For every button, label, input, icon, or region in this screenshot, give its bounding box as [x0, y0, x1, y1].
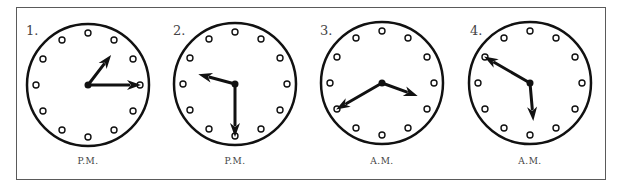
hour-marker-icon [424, 54, 430, 60]
clock-1-number: 1. [26, 23, 38, 38]
minute-hand-icon [484, 57, 530, 84]
hour-marker-icon [353, 35, 359, 41]
hour-marker-icon [405, 125, 411, 131]
hour-marker-icon [327, 80, 333, 86]
center-pin-icon [527, 80, 534, 87]
minute-hand-icon [230, 84, 240, 137]
clock-2-period-label: P.M. [160, 156, 310, 166]
hour-hand-icon [198, 73, 235, 84]
hour-marker-icon [527, 28, 533, 34]
center-pin-icon [379, 80, 386, 87]
hour-marker-icon [59, 37, 65, 43]
hour-marker-icon [130, 56, 136, 62]
hour-marker-icon [527, 132, 533, 138]
minute-hand-icon [88, 80, 141, 90]
hour-marker-icon [59, 127, 65, 133]
clock-3-period-label: A.M. [307, 156, 457, 166]
hour-marker-icon [111, 127, 117, 133]
hour-marker-icon [405, 35, 411, 41]
hour-marker-icon [206, 126, 212, 132]
hour-marker-icon [501, 35, 507, 41]
clock-4 [469, 22, 591, 144]
center-pin-icon [85, 82, 92, 89]
hour-hand-icon [382, 83, 418, 96]
hour-marker-icon [553, 35, 559, 41]
hour-marker-icon [284, 81, 290, 87]
hour-marker-icon [187, 55, 193, 61]
hour-marker-icon [572, 54, 578, 60]
clock-1 [27, 24, 149, 146]
hour-marker-icon [501, 125, 507, 131]
hour-marker-icon [424, 106, 430, 112]
hour-marker-icon [553, 125, 559, 131]
hour-marker-icon [572, 106, 578, 112]
clock-4-period-label: A.M. [455, 156, 605, 166]
hour-marker-icon [475, 80, 481, 86]
hour-marker-icon [579, 80, 585, 86]
hour-marker-icon [187, 107, 193, 113]
hour-marker-icon [431, 80, 437, 86]
hour-marker-icon [277, 55, 283, 61]
hour-marker-icon [206, 36, 212, 42]
hour-marker-icon [130, 108, 136, 114]
clock-2 [174, 23, 296, 145]
hour-marker-icon [277, 107, 283, 113]
hour-marker-icon [353, 125, 359, 131]
clock-3-number: 3. [320, 23, 332, 38]
hour-marker-icon [33, 82, 39, 88]
hour-marker-icon [258, 126, 264, 132]
hour-marker-icon [334, 54, 340, 60]
hour-marker-icon [111, 37, 117, 43]
hour-marker-icon [180, 81, 186, 87]
hour-marker-icon [379, 28, 385, 34]
hour-marker-icon [85, 30, 91, 36]
hour-hand-icon [88, 55, 111, 85]
minute-hand-icon [336, 83, 382, 110]
clock-1-period-label: P.M. [13, 156, 163, 166]
hour-marker-icon [232, 29, 238, 35]
clock-3 [321, 22, 443, 144]
hour-marker-icon [40, 108, 46, 114]
hour-marker-icon [482, 106, 488, 112]
center-pin-icon [232, 81, 239, 88]
clock-2-number: 2. [173, 23, 185, 38]
hour-marker-icon [379, 132, 385, 138]
hour-marker-icon [258, 36, 264, 42]
clock-4-number: 4. [470, 23, 482, 38]
hour-marker-icon [40, 56, 46, 62]
hour-marker-icon [85, 134, 91, 140]
hour-hand-icon [527, 83, 537, 121]
